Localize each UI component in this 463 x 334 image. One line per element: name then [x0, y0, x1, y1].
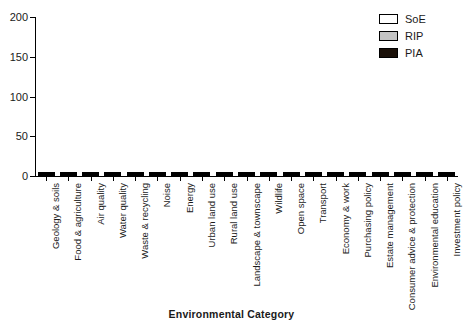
- x-tick: [169, 177, 191, 182]
- x-label-cell: Geology & soils: [35, 183, 57, 295]
- x-tick: [280, 177, 302, 182]
- x-tick: [436, 177, 458, 182]
- x-label-cell: Rural land use: [213, 183, 235, 295]
- bar-column[interactable]: [80, 17, 102, 176]
- x-label-cell: Wildlife: [258, 183, 280, 295]
- bar-segment-soe: [327, 174, 344, 176]
- bar-stack: [171, 172, 188, 176]
- bar-segment-soe: [104, 174, 121, 176]
- y-tick-label: 200: [10, 12, 28, 23]
- bar-column[interactable]: [169, 17, 191, 176]
- x-tick: [302, 177, 324, 182]
- bar-column[interactable]: [102, 17, 124, 176]
- bar-column[interactable]: [191, 17, 213, 176]
- bar-segment-soe: [149, 174, 166, 176]
- bar-stack: [438, 172, 455, 176]
- bar-stack: [216, 172, 233, 176]
- bar-stack: [416, 172, 433, 176]
- bar-column[interactable]: [235, 17, 257, 176]
- legend-item-rip[interactable]: RIP: [379, 30, 426, 42]
- x-axis-label: Investment policy: [451, 183, 462, 256]
- bar-stack: [149, 172, 166, 176]
- bar-segment-soe: [416, 174, 433, 176]
- x-tick: [391, 177, 413, 182]
- bar-stack: [82, 172, 99, 176]
- y-tick-label: 50: [16, 131, 28, 142]
- white-square-swatch-icon: [379, 14, 398, 24]
- bar-column[interactable]: [146, 17, 168, 176]
- x-tick: [191, 177, 213, 182]
- bar-segment-soe: [283, 174, 300, 176]
- x-tick: [324, 177, 346, 182]
- x-tick: [213, 177, 235, 182]
- x-tick: [124, 177, 146, 182]
- bar-stack: [127, 172, 144, 176]
- x-label-cell: Open space: [280, 183, 302, 295]
- x-tick-marks: [35, 177, 458, 182]
- black-square-swatch-icon: [379, 48, 398, 58]
- legend-item-soe[interactable]: SoE: [379, 13, 426, 25]
- bar-stack: [283, 172, 300, 176]
- legend-label: RIP: [405, 31, 423, 42]
- bar-stack: [372, 172, 389, 176]
- bar-stack: [305, 172, 322, 176]
- legend-label: SoE: [405, 14, 426, 25]
- bar-segment-soe: [171, 174, 188, 176]
- bar-column[interactable]: [324, 17, 346, 176]
- x-axis-title: Environmental Category: [0, 308, 463, 320]
- legend-label: PIA: [405, 48, 423, 59]
- x-label-cell: Water quality: [102, 183, 124, 295]
- bar-stack: [394, 172, 411, 176]
- bar-stack: [327, 172, 344, 176]
- x-label-cell: Food & agriculture: [57, 183, 79, 295]
- legend-item-pia[interactable]: PIA: [379, 47, 426, 59]
- x-tick: [57, 177, 79, 182]
- y-tick-label: 100: [10, 91, 28, 102]
- bar-column[interactable]: [436, 17, 458, 176]
- bar-column[interactable]: [124, 17, 146, 176]
- bar-stack: [238, 172, 255, 176]
- x-tick: [80, 177, 102, 182]
- grey-square-swatch-icon: [379, 31, 398, 41]
- y-tick-label: 0: [22, 171, 28, 182]
- x-label-cell: Estate management: [369, 183, 391, 295]
- bar-column[interactable]: [347, 17, 369, 176]
- bar-column[interactable]: [57, 17, 79, 176]
- x-tick: [258, 177, 280, 182]
- y-tick-label: 150: [10, 51, 28, 62]
- bar-stack: [260, 172, 277, 176]
- bar-stack: [60, 172, 77, 176]
- bar-segment-soe: [193, 174, 210, 176]
- x-label-cell: Transport: [302, 183, 324, 295]
- bar-segment-soe: [349, 174, 366, 176]
- x-label-cell: Energy: [169, 183, 191, 295]
- bar-segment-soe: [127, 174, 144, 176]
- x-tick: [369, 177, 391, 182]
- x-tick: [146, 177, 168, 182]
- x-label-cell: Waste & recycling: [124, 183, 146, 295]
- x-label-cell: Consumer advice & protection: [391, 183, 413, 295]
- bar-stack: [349, 172, 366, 176]
- bar-stack: [38, 172, 55, 176]
- x-tick: [35, 177, 57, 182]
- bar-column[interactable]: [302, 17, 324, 176]
- bar-column[interactable]: [35, 17, 57, 176]
- x-tick: [102, 177, 124, 182]
- bar-segment-soe: [394, 174, 411, 176]
- bar-column[interactable]: [213, 17, 235, 176]
- bar-segment-soe: [238, 174, 255, 176]
- bar-stack: [104, 172, 121, 176]
- x-label-cell: Urban land use: [191, 183, 213, 295]
- legend: SoE RIP PIA: [379, 13, 426, 64]
- bar-column[interactable]: [280, 17, 302, 176]
- bar-segment-soe: [260, 174, 277, 176]
- bar-column[interactable]: [258, 17, 280, 176]
- bar-segment-soe: [216, 174, 233, 176]
- bar-stack: [193, 172, 210, 176]
- x-label-cell: Purchasing policy: [347, 183, 369, 295]
- x-axis-category-labels: Geology & soilsFood & agricultureAir qua…: [35, 183, 458, 295]
- bar-segment-soe: [60, 174, 77, 176]
- x-tick: [414, 177, 436, 182]
- x-label-cell: Landscape & townscape: [235, 183, 257, 295]
- bar-segment-soe: [305, 174, 322, 176]
